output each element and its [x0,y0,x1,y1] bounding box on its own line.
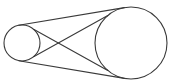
tangent-circles-diagram [0,0,175,84]
diagram-background [0,0,175,84]
